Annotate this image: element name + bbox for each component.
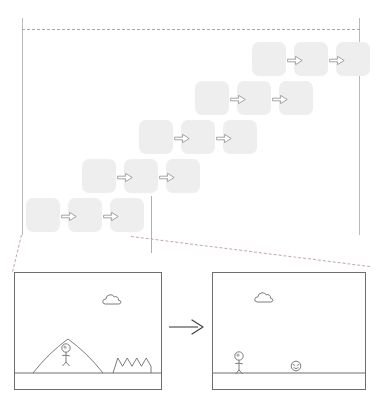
block-arrow-right-icon (174, 133, 190, 144)
enemy-face-icon (291, 361, 301, 371)
block-arrow-right-icon (287, 55, 303, 66)
frame-cell[interactable] (26, 198, 60, 232)
block-arrow-right-icon (329, 55, 345, 66)
callout-dashed-line (131, 236, 370, 267)
stick-figure-icon (62, 344, 70, 366)
last-row-divider (151, 196, 152, 253)
block-arrow-right-icon (159, 172, 175, 183)
frame-cell[interactable] (82, 159, 116, 193)
spiky-bush-icon (113, 358, 151, 373)
scene-panel[interactable] (212, 272, 366, 390)
transition-arrow-right (168, 318, 208, 336)
panel-left-border (22, 18, 23, 235)
figure-root (0, 0, 382, 407)
block-arrow-right-icon (117, 172, 133, 183)
frame-cell[interactable] (139, 120, 173, 154)
cloud-icon (103, 295, 121, 304)
scene-panel[interactable] (14, 272, 162, 390)
block-arrow-right-icon (272, 94, 288, 105)
timeline-panel (22, 18, 360, 235)
stick-figure-icon (235, 352, 243, 374)
block-arrow-right-icon (230, 94, 246, 105)
cloud-icon (255, 293, 273, 302)
block-arrow-right-icon (103, 211, 119, 222)
callout-dashed-line (12, 235, 22, 272)
panel-top-dashed-border (22, 29, 360, 30)
frame-cell[interactable] (195, 81, 229, 115)
block-arrow-right-icon (61, 211, 77, 222)
block-arrow-right-icon (216, 133, 232, 144)
frame-cell[interactable] (252, 42, 286, 76)
